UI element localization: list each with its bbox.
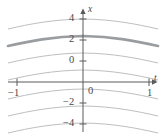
axes-group [8, 9, 158, 133]
plot-canvas [0, 0, 164, 139]
y-tick-label-2: 2 [69, 34, 74, 45]
figure-container: x t 4 2 0 −2 −4 −1 1 0 [0, 0, 164, 139]
x-tick-label-minus-1: −1 [8, 88, 19, 99]
y-tick-label-4: 4 [69, 13, 74, 24]
x-tick-label-1: 1 [147, 88, 152, 99]
y-axis-arrowhead [80, 9, 85, 15]
x-axis-label: t [154, 74, 157, 84]
y-tick-label-0: 0 [69, 55, 74, 66]
y-axis-label: x [88, 5, 92, 15]
y-tick-label-minus-4: −4 [63, 118, 74, 129]
y-tick-label-minus-2: −2 [63, 97, 74, 108]
origin-label: 0 [88, 86, 93, 97]
